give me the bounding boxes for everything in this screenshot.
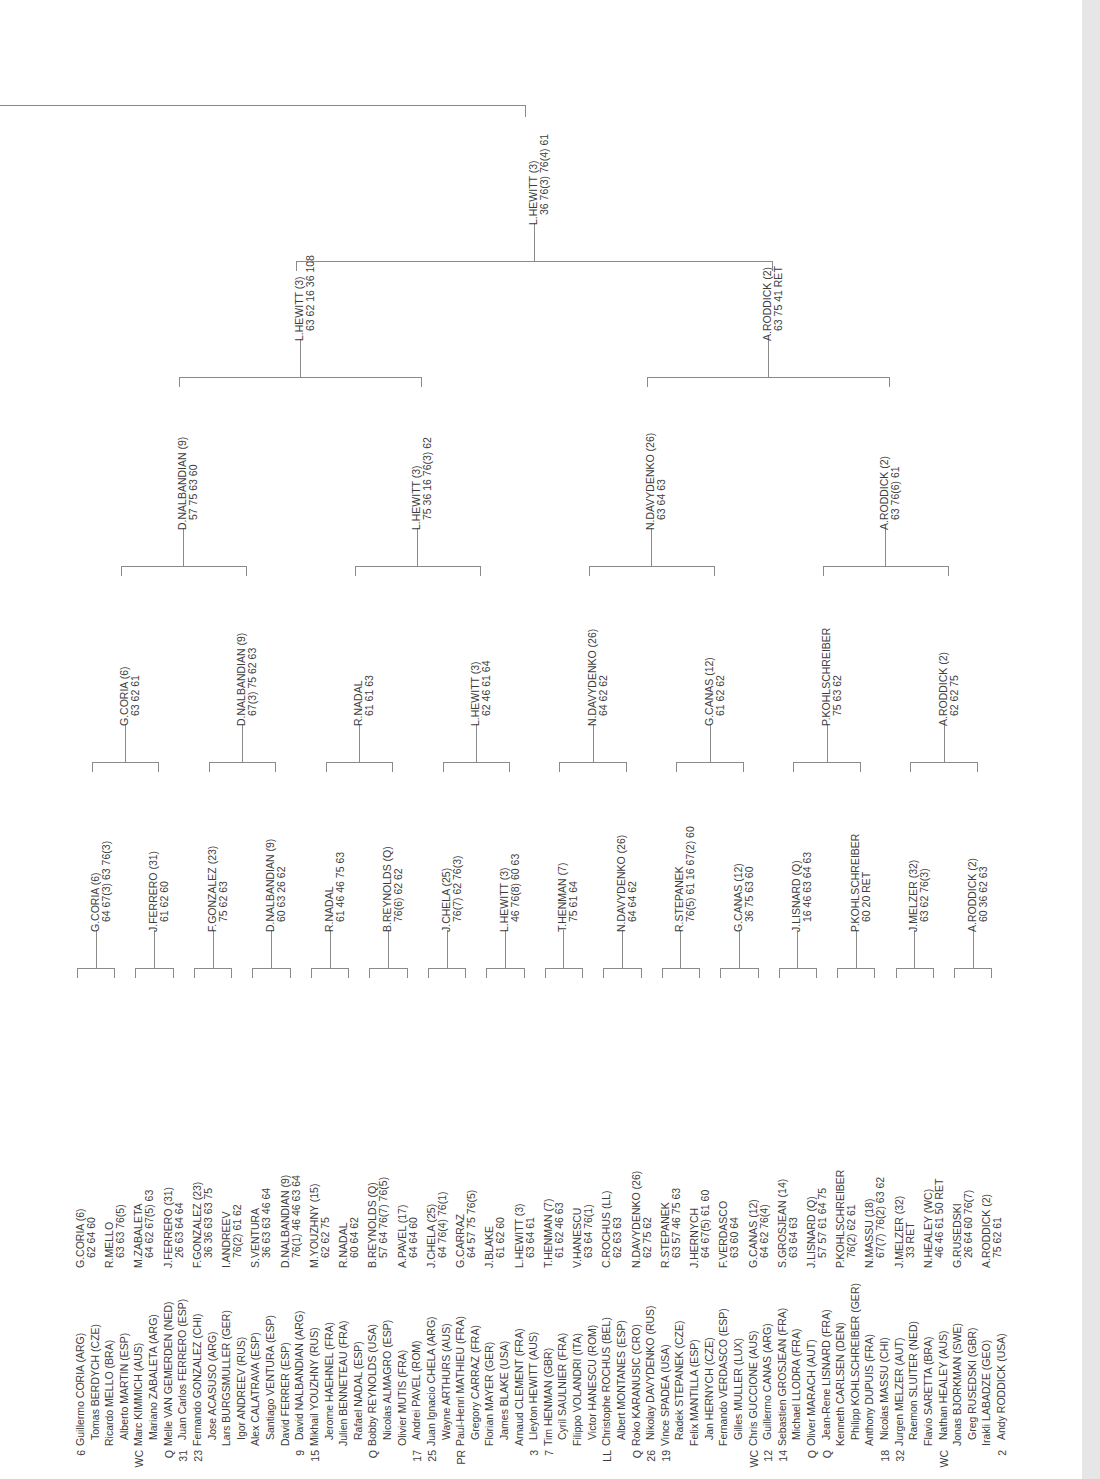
round4-result: L.HEWITT (3)62 46 61 64 bbox=[470, 661, 492, 726]
player-seed: 3 bbox=[528, 1450, 540, 1476]
player-entry: Raemon SLUITER (NED) bbox=[908, 1321, 919, 1440]
player-entry: Nicolas ALMAGRO (ESP) bbox=[382, 1320, 393, 1440]
round3-connector-stem bbox=[388, 930, 389, 968]
player-entry: Jurgen MELZER (AUT) bbox=[894, 1337, 905, 1446]
round2-result: L.HEWITT (3)63 64 61 bbox=[514, 1203, 536, 1268]
match-score: 57 57 61 64 75 bbox=[817, 1188, 828, 1268]
match-score: 33 RET bbox=[905, 1196, 916, 1268]
player-entry: Mariano ZABALETA (ARG) bbox=[148, 1314, 159, 1440]
round4-connector bbox=[676, 762, 742, 763]
player-entry: Santiago VENTURA (ESP) bbox=[265, 1315, 276, 1440]
quarterfinals-connector-tick bbox=[589, 566, 590, 576]
round3-connector-stem bbox=[505, 930, 506, 968]
round4-result: R.NADAL61 61 63 bbox=[353, 675, 375, 726]
player-seed: 25 bbox=[426, 1450, 438, 1476]
semifinals-result: L.HEWITT (3)63 62 16 36 108 bbox=[294, 255, 316, 341]
player-seed: 14 bbox=[777, 1450, 789, 1476]
round2-result: F.GONZALEZ (23)36 36 63 63 75 bbox=[192, 1182, 214, 1268]
match-score: 75 62 61 bbox=[992, 1194, 1003, 1268]
semifinals-connector-stem bbox=[768, 339, 769, 377]
semifinals-connector-stem bbox=[300, 339, 301, 377]
final-connector bbox=[296, 261, 772, 262]
round3-connector-tick bbox=[779, 968, 780, 978]
round2-result: V.HANESCU63 64 76(1) bbox=[572, 1204, 594, 1268]
match-score: 63 64 76(1) bbox=[583, 1204, 594, 1268]
player-seed: Q bbox=[631, 1450, 643, 1476]
round4-connector-tick bbox=[92, 762, 93, 772]
round2-result: A.RODDICK (2)75 62 61 bbox=[981, 1194, 1003, 1268]
round3-connector-tick bbox=[874, 968, 875, 978]
round3-connector-stem bbox=[447, 930, 448, 968]
winner-name: A.RODDICK (2) bbox=[938, 652, 949, 726]
player-entry: Felix MANTILLA (ESP) bbox=[689, 1339, 700, 1446]
round3-connector-stem bbox=[154, 930, 155, 968]
match-score: 76(7) 62 76(3) bbox=[452, 855, 463, 932]
player-entry: Guillermo CANAS (ARG) bbox=[762, 1323, 773, 1440]
round3-connector bbox=[662, 968, 699, 969]
match-score: 61 62 60 bbox=[159, 851, 170, 932]
match-score: 64 76(4) 76(1) bbox=[437, 1191, 448, 1268]
round4-connector-stem bbox=[827, 724, 828, 762]
quarterfinals-result: D.NALBANDIAN (9)57 75 63 60 bbox=[177, 437, 199, 530]
winner-name: P.KOHLSCHREIBER bbox=[821, 628, 832, 726]
match-score: 63 60 64 bbox=[729, 1201, 740, 1268]
winner-name: R.NADAL bbox=[324, 852, 335, 932]
round4-result: P.KOHLSCHREIBER75 63 62 bbox=[821, 628, 843, 726]
champion-line bbox=[0, 105, 525, 106]
quarterfinals-connector-stem bbox=[417, 528, 418, 566]
quarterfinals-connector-tick bbox=[246, 566, 247, 576]
match-score: 76(2) 62 61 bbox=[846, 1170, 857, 1268]
round2-result: P.KOHLSCHREIBER76(2) 62 61 bbox=[835, 1170, 857, 1268]
round4-connector-tick bbox=[392, 762, 393, 772]
player-entry: Mikhail YOUZHNY (RUS) bbox=[309, 1327, 320, 1446]
round3-connector-stem bbox=[680, 930, 681, 968]
player-entry: Greg RUSEDSKI (GBR) bbox=[967, 1327, 978, 1440]
match-score: 75 61 64 bbox=[568, 863, 579, 932]
round2-result: C.ROCHUS (LL)62 63 63 bbox=[601, 1190, 623, 1268]
round3-connector-tick bbox=[758, 968, 759, 978]
round3-connector-stem bbox=[213, 930, 214, 968]
player-entry: Roko KARANUSIC (CRO) bbox=[631, 1324, 642, 1446]
round4-connector-stem bbox=[710, 724, 711, 762]
match-score: 64 57 75 76(5) bbox=[466, 1190, 477, 1268]
match-score: 63 64 63 bbox=[656, 433, 667, 530]
player-seed: WC bbox=[133, 1450, 145, 1476]
round4-result: G.CORIA (6)63 62 61 bbox=[119, 666, 141, 726]
player-entry: Oliver MARACH (AUT) bbox=[806, 1339, 817, 1446]
round3-result: T.HENMAN (7)75 61 64 bbox=[557, 863, 579, 932]
match-score: 76(2) 61 62 bbox=[232, 1204, 243, 1268]
player-entry: Arnaud CLEMENT (FRA) bbox=[514, 1328, 525, 1446]
round3-connector-tick bbox=[991, 968, 992, 978]
player-entry: Gilles MULLER (LUX) bbox=[733, 1338, 744, 1440]
round2-result: N.HEALEY (WC)46 46 61 50 RET bbox=[923, 1179, 945, 1268]
round4-connector bbox=[559, 762, 625, 763]
round4-connector-stem bbox=[476, 724, 477, 762]
round2-result: S.GROSJEAN (14)63 64 63 bbox=[777, 1179, 799, 1268]
round2-result: R.MELLO63 63 76(5) bbox=[104, 1204, 126, 1268]
player-entry: Florian MAYER (GER) bbox=[484, 1342, 495, 1446]
round4-connector bbox=[793, 762, 859, 763]
match-score: 61 46 46 75 63 bbox=[335, 852, 346, 932]
match-score: 76(6) 62 62 bbox=[393, 846, 404, 932]
player-entry: Jonas BJORKMAN (SWE) bbox=[952, 1323, 963, 1446]
round3-connector-stem bbox=[563, 930, 564, 968]
player-seed: 18 bbox=[879, 1450, 891, 1476]
semifinals-connector bbox=[179, 377, 421, 378]
round3-connector-tick bbox=[231, 968, 232, 978]
player-seed: LL bbox=[601, 1450, 613, 1476]
match-score: 36 36 63 63 75 bbox=[203, 1182, 214, 1268]
winner-name: G.CANAS (12) bbox=[748, 1199, 759, 1268]
match-score: 46 76(8) 60 63 bbox=[510, 854, 521, 932]
player-entry: Fernando GONZALEZ (CHI) bbox=[192, 1314, 203, 1446]
round3-connector-tick bbox=[114, 968, 115, 978]
player-entry: Fernando VERDASCO (ESP) bbox=[718, 1308, 729, 1446]
player-entry: Sebastien GROSJEAN (FRA) bbox=[777, 1308, 788, 1446]
player-entry: David NALBANDIAN (ARG) bbox=[294, 1310, 305, 1440]
round2-result: J.HERNYCH64 67(5) 61 60 bbox=[689, 1190, 711, 1268]
round3-result: N.DAVYDENKO (26)64 64 62 bbox=[616, 835, 638, 932]
match-score: 46 46 61 50 RET bbox=[934, 1179, 945, 1268]
match-score: 60 63 26 62 bbox=[276, 839, 287, 932]
player-seed: 6 bbox=[75, 1450, 87, 1476]
player-entry: Tomas BERDYCH (CZE) bbox=[90, 1324, 101, 1440]
round2-result: J.MELZER (32)33 RET bbox=[894, 1196, 916, 1268]
